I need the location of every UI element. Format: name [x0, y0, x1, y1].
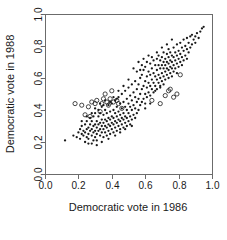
data-point-filled	[126, 117, 128, 119]
data-point-filled	[137, 109, 139, 111]
data-point-filled	[176, 72, 178, 74]
data-point-filled	[166, 61, 168, 63]
data-point-filled	[162, 75, 164, 77]
data-point-open	[163, 94, 167, 98]
data-point-filled	[132, 114, 134, 116]
data-point-filled	[99, 122, 101, 124]
data-point-filled	[111, 115, 113, 117]
data-point-filled	[162, 83, 164, 85]
data-point-filled	[152, 72, 154, 74]
data-point-filled	[134, 96, 136, 98]
data-point-filled	[81, 125, 83, 127]
data-point-filled	[106, 120, 108, 122]
data-point-open	[103, 92, 107, 96]
data-point-filled	[124, 106, 126, 108]
data-point-open	[110, 89, 114, 93]
data-point-filled	[87, 133, 89, 135]
data-point-filled	[104, 109, 106, 111]
data-point-filled	[161, 56, 163, 58]
data-point-filled	[102, 136, 104, 138]
data-point-filled	[101, 118, 103, 120]
data-point-filled	[131, 109, 133, 111]
data-point-filled	[151, 88, 153, 90]
x-tick-label: 0.4	[106, 180, 120, 191]
data-point-filled	[182, 38, 184, 40]
data-point-filled	[127, 112, 129, 114]
data-point-filled	[142, 98, 144, 100]
data-point-filled	[166, 74, 168, 76]
data-point-filled	[124, 122, 126, 124]
data-point-filled	[162, 67, 164, 69]
data-point-filled	[124, 115, 126, 117]
y-axis-title: Democratic vote in 1988	[4, 35, 16, 154]
data-point-filled	[106, 126, 108, 128]
data-point-filled	[91, 128, 93, 130]
data-point-filled	[184, 45, 186, 47]
data-point-filled	[89, 130, 91, 132]
data-point-filled	[114, 120, 116, 122]
data-point-filled	[154, 64, 156, 66]
data-point-filled	[141, 64, 143, 66]
data-point-filled	[159, 77, 161, 79]
data-point-filled	[107, 130, 109, 132]
data-point-filled	[172, 46, 174, 48]
data-point-filled	[147, 70, 149, 72]
data-point-filled	[182, 50, 184, 52]
data-point-filled	[141, 88, 143, 90]
data-point-open	[80, 103, 84, 107]
data-point-filled	[79, 128, 81, 130]
data-point-filled	[129, 94, 131, 96]
data-point-filled	[92, 115, 94, 117]
data-point-filled	[144, 66, 146, 68]
data-point-filled	[157, 74, 159, 76]
data-point-filled	[146, 96, 148, 98]
data-point-filled	[176, 54, 178, 56]
data-point-filled	[76, 136, 78, 138]
data-point-filled	[179, 61, 181, 63]
data-point-filled	[189, 35, 191, 37]
data-point-filled	[129, 106, 131, 108]
data-point-filled	[96, 144, 98, 146]
data-point-filled	[116, 106, 118, 108]
data-point-filled	[127, 86, 129, 88]
data-point-filled	[149, 102, 151, 104]
data-point-open	[86, 105, 90, 109]
data-point-filled	[99, 134, 101, 136]
data-point-filled	[134, 117, 136, 119]
data-point-filled	[169, 66, 171, 68]
data-point-filled	[72, 134, 74, 136]
data-point-filled	[92, 131, 94, 133]
data-point-filled	[86, 128, 88, 130]
data-point-filled	[112, 131, 114, 133]
data-point-filled	[164, 64, 166, 66]
data-point-open	[83, 113, 87, 117]
data-point-filled	[174, 67, 176, 69]
data-point-filled	[107, 117, 109, 119]
data-point-filled	[132, 67, 134, 69]
data-point-filled	[149, 94, 151, 96]
data-point-filled	[119, 128, 121, 130]
data-point-filled	[131, 125, 133, 127]
x-tick-label: 0.8	[173, 180, 187, 191]
data-point-filled	[82, 134, 84, 136]
data-point-filled	[177, 50, 179, 52]
data-point-filled	[186, 48, 188, 50]
data-point-filled	[104, 131, 106, 133]
data-point-filled	[144, 93, 146, 95]
data-point-filled	[149, 85, 151, 87]
data-point-filled	[131, 99, 133, 101]
data-point-filled	[84, 141, 86, 143]
data-point-filled	[112, 123, 114, 125]
data-point-filled	[176, 62, 178, 64]
x-tick-label: 1.0	[206, 180, 220, 191]
data-point-open	[73, 102, 77, 106]
data-point-filled	[161, 80, 163, 82]
data-point-filled	[161, 64, 163, 66]
data-point-filled	[142, 69, 144, 71]
data-point-filled	[167, 77, 169, 79]
data-point-filled	[126, 109, 128, 111]
data-point-filled	[94, 130, 96, 132]
data-point-filled	[171, 38, 173, 40]
data-point-filled	[154, 85, 156, 87]
data-point-filled	[91, 142, 93, 144]
